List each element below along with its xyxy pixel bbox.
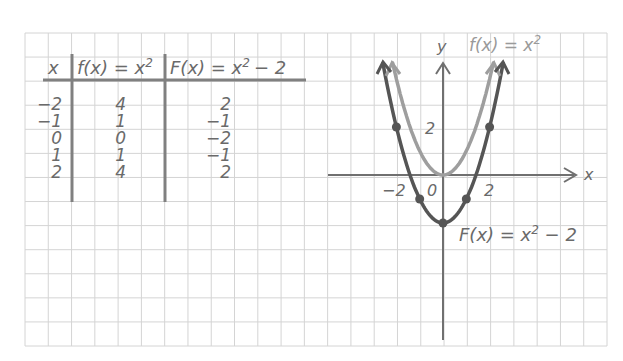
worksheet: x f(x) = x2 F(x) = x2− 2 −242−11−100−211… — [0, 0, 623, 361]
table-cell-F: 2 — [220, 162, 231, 182]
label-f-x-squared: f(x) = x2 — [469, 33, 541, 55]
data-point — [415, 195, 424, 204]
tick-label-x-neg2: −2 — [382, 181, 406, 200]
tick-label-x-0: 0 — [427, 181, 437, 200]
table-body: −242−11−100−211−1242 — [37, 94, 231, 182]
table-cell-x: 2 — [51, 162, 62, 182]
data-point — [392, 123, 401, 132]
table-cell-f: 4 — [115, 162, 126, 182]
tick-label-y-2: 2 — [425, 119, 435, 138]
y-axis-label: y — [436, 37, 447, 56]
label-F-x-squared-minus-2: F(x) = x2 − 2 — [459, 223, 577, 245]
x-axis-label: x — [583, 165, 594, 184]
table-header-F: F(x) = x2− 2 — [170, 56, 286, 78]
table-header-f: f(x) = x2 — [77, 56, 153, 78]
data-point — [439, 219, 448, 228]
data-point — [485, 123, 494, 132]
value-table: x f(x) = x2 F(x) = x2− 2 −242−11−100−211… — [37, 54, 306, 202]
data-point — [462, 195, 471, 204]
graph: x y −2 0 2 2 f(x) = x2 F(x) = x2 − 2 — [328, 33, 594, 340]
table-header-x: x — [47, 57, 59, 78]
tick-label-x-2: 2 — [484, 181, 494, 200]
